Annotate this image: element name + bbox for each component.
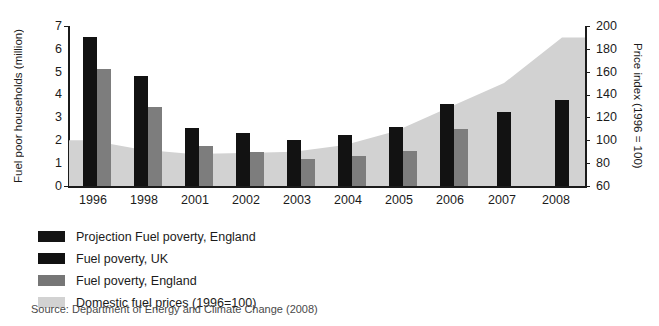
tickmark-right-200 — [586, 26, 590, 27]
y-tick-left-6: 6 — [40, 43, 62, 55]
bar-eng-2003 — [301, 159, 315, 186]
tickmark-right-80 — [586, 163, 590, 164]
y-axis-left-title: Fuel poor households (million) — [12, 20, 30, 192]
y-tick-left-1: 1 — [40, 157, 62, 169]
y-tick-right-100: 100 — [596, 134, 622, 146]
x-tick-2008: 2008 — [528, 193, 584, 207]
plot-interior — [69, 26, 585, 186]
bar-uk-2003 — [287, 140, 301, 186]
legend-item-fuel-poverty-uk: Fuel poverty, UK — [38, 250, 458, 268]
y-tick-left-3: 3 — [40, 111, 62, 123]
x-axis-line — [68, 186, 587, 188]
legend-label-fuel-poverty-england: Fuel poverty, England — [76, 274, 197, 288]
y-tick-right-140: 140 — [596, 88, 622, 100]
bar-uk-1998 — [134, 76, 148, 186]
legend-swatch-uk-icon — [38, 253, 65, 264]
tickmark-right-160 — [586, 72, 590, 73]
y-tick-right-180: 180 — [596, 43, 622, 55]
y-axis-right-line — [585, 26, 587, 187]
legend-item-projection: Projection Fuel poverty, England — [38, 228, 458, 246]
bar-eng-2004 — [352, 156, 366, 186]
bar-uk-2004 — [338, 135, 352, 186]
bar-eng-1996 — [97, 69, 111, 186]
bar-eng-1998 — [148, 107, 162, 186]
legend-item-fuel-poverty-england: Fuel poverty, England — [38, 272, 458, 290]
y-tick-right-200: 200 — [596, 20, 622, 32]
bar-uk-2001 — [185, 128, 199, 186]
x-tick-2006: 2006 — [422, 193, 478, 207]
tickmark-right-120 — [586, 117, 590, 118]
x-tick-2003: 2003 — [269, 193, 325, 207]
legend-swatch-england-icon — [38, 275, 65, 286]
bar-uk-1996 — [83, 37, 97, 186]
y-tick-left-2: 2 — [40, 134, 62, 146]
tickmark-right-140 — [586, 95, 590, 96]
y-tick-right-120: 120 — [596, 111, 622, 123]
y-tick-left-4: 4 — [40, 88, 62, 100]
x-tick-2004: 2004 — [320, 193, 376, 207]
bar-projection-2008 — [555, 100, 569, 186]
bar-projection-2007 — [497, 112, 511, 186]
chart-source-note: Source: Department of Energy and Climate… — [31, 303, 318, 315]
bar-uk-2002 — [236, 133, 250, 186]
bar-eng-2001 — [199, 146, 213, 186]
legend-swatch-projection-icon — [38, 231, 65, 242]
x-tick-1996: 1996 — [65, 193, 121, 207]
bar-eng-2005 — [403, 151, 417, 186]
legend-label-fuel-poverty-uk: Fuel poverty, UK — [76, 252, 168, 266]
legend-label-projection: Projection Fuel poverty, England — [76, 230, 256, 244]
x-tick-2001: 2001 — [167, 193, 223, 207]
tickmark-right-180 — [586, 49, 590, 50]
fuel-poverty-chart-figure: Fuel poor households (million) Price ind… — [0, 0, 659, 326]
bar-eng-2006 — [454, 129, 468, 186]
bar-eng-2002 — [250, 152, 264, 186]
y-tick-left-0: 0 — [40, 180, 62, 192]
bar-uk-2006 — [440, 104, 454, 186]
x-tick-2002: 2002 — [218, 193, 274, 207]
tickmark-right-100 — [586, 140, 590, 141]
y-tick-left-7: 7 — [40, 20, 62, 32]
bar-uk-2005 — [389, 127, 403, 186]
y-tick-right-80: 80 — [596, 157, 622, 169]
x-tick-1998: 1998 — [116, 193, 172, 207]
y-tick-right-160: 160 — [596, 66, 622, 78]
x-tick-2005: 2005 — [371, 193, 427, 207]
x-tick-2007: 2007 — [474, 193, 530, 207]
chart-plot-area: Fuel poor households (million) Price ind… — [0, 0, 659, 200]
y-axis-right-title: Price index (1996 = 100) — [626, 18, 644, 194]
y-tick-right-60: 60 — [596, 180, 622, 192]
y-tick-left-5: 5 — [40, 66, 62, 78]
